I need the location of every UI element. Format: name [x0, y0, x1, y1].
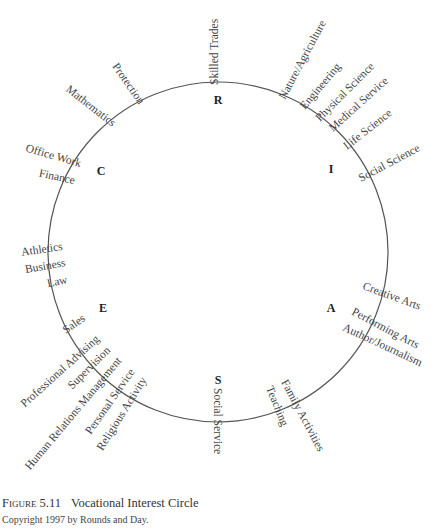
copyright-note: Copyright 1997 by Rounds and Day.: [2, 514, 149, 525]
figure-title: Vocational Interest Circle: [71, 496, 199, 510]
label-athletics: Athletics: [20, 240, 63, 258]
type-code-i: I: [329, 162, 334, 176]
label-human-relations-management: Human Relations Management: [22, 354, 124, 473]
label-social-service: Social Service: [212, 388, 224, 454]
label-skilled-trades: Skilled Trades: [208, 18, 220, 85]
label-protection: Protection: [110, 61, 147, 107]
type-code-e: E: [99, 301, 107, 315]
type-code-a: A: [327, 301, 336, 315]
figure-caption: Figure 5.11Vocational Interest Circle: [2, 496, 199, 511]
type-code-r: R: [214, 93, 223, 107]
figure-number: Figure 5.11: [2, 496, 61, 510]
label-finance: Finance: [38, 167, 76, 186]
interest-circle-diagram: R I A S E C Skilled Trades Nature/Agricu…: [0, 0, 439, 490]
type-code-s: S: [215, 373, 222, 387]
label-creative-arts: Creative Arts: [361, 280, 423, 312]
label-sales: Sales: [60, 312, 87, 336]
label-mathematics: Mathematics: [64, 83, 119, 129]
interest-circle: [48, 82, 388, 422]
type-code-c: C: [97, 164, 106, 178]
label-office-work: Office Work: [25, 142, 83, 169]
label-business: Business: [24, 256, 67, 275]
label-social-science: Social Science: [356, 142, 421, 184]
